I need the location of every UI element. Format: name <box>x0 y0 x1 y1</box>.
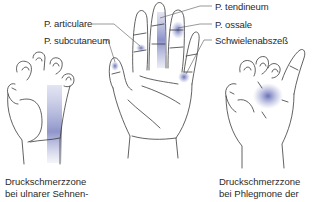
caption-left-line2: bei ulnarer Sehnen- <box>5 188 88 200</box>
right-hand <box>226 49 305 168</box>
caption-right: Druckschmerzzone bei Phlegmone der <box>219 176 300 200</box>
caption-left-line1: Druckschmerzzone <box>5 176 88 188</box>
caption-left: Druckschmerzzone bei ulnarer Sehnen- <box>5 176 88 200</box>
label-p-subcutaneum: P. subcutaneum <box>44 35 110 46</box>
hand-illustrations <box>0 0 313 202</box>
label-p-tendineum: P. tendineum <box>215 1 269 12</box>
caption-right-line1: Druckschmerzzone <box>219 176 300 188</box>
middle-hand <box>109 3 199 158</box>
label-schwielenabszess: Schwielenabszeß <box>215 35 288 46</box>
caption-right-line2: bei Phlegmone der <box>219 188 300 200</box>
label-p-ossale: P. ossale <box>215 19 252 30</box>
label-p-articulare: P. articulare <box>44 18 92 29</box>
left-hand <box>7 52 74 164</box>
